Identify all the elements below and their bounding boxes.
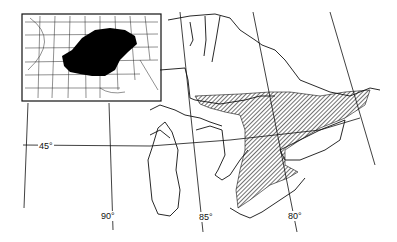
inset-map [22, 14, 161, 101]
longitude-label-90: 90° [100, 211, 116, 221]
longitude-label-85: 85° [198, 212, 214, 222]
range-map [0, 0, 397, 242]
longitude-label-80: 80° [287, 211, 303, 221]
main-range [195, 90, 370, 208]
latitude-label-45: 45° [38, 141, 54, 151]
